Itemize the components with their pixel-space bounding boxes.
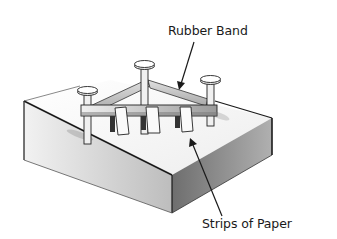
rubber-band-label: Rubber Band [168,23,248,38]
strips-of-paper-label: Strips of Paper [202,216,292,231]
paper-strip-2 [146,107,160,133]
diagram: Rubber Band Strips of Paper [0,0,337,239]
paper-strip-1 [115,107,129,135]
paper-strip-3 [180,107,193,132]
rubber-band-arrow [177,42,194,90]
